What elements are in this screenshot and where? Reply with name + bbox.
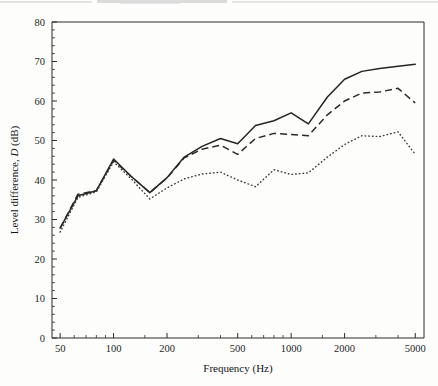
y-axis-title-prefix: Level difference, bbox=[8, 157, 20, 235]
y-axis-tick-label: 10 bbox=[35, 293, 46, 304]
x-axis-title: Frequency (Hz) bbox=[203, 362, 273, 375]
tick-labels-group: 0102030405060708050100200500100020005000 bbox=[35, 17, 426, 354]
x-axis-tick-label: 5000 bbox=[405, 343, 426, 354]
series-line-dashed bbox=[60, 88, 415, 228]
y-axis-title-symbol: D bbox=[8, 149, 20, 158]
figure-container: 0102030405060708050100200500100020005000… bbox=[0, 0, 438, 386]
x-axis-tick-label: 500 bbox=[230, 343, 246, 354]
y-axis-tick-label: 60 bbox=[35, 96, 46, 107]
x-axis-tick-label: 1000 bbox=[281, 343, 302, 354]
y-axis-tick-label: 0 bbox=[40, 333, 45, 344]
ticks-group bbox=[52, 22, 415, 338]
y-axis-title-suffix: (dB) bbox=[8, 125, 21, 148]
x-axis-tick-label: 50 bbox=[55, 343, 66, 354]
y-axis-title: Level difference, D (dB) bbox=[8, 125, 21, 234]
y-axis-tick-label: 50 bbox=[35, 135, 46, 146]
y-axis-tick-label: 80 bbox=[35, 17, 46, 28]
y-axis-tick-label: 20 bbox=[35, 254, 46, 265]
line-chart: 0102030405060708050100200500100020005000… bbox=[0, 0, 438, 386]
y-axis-tick-label: 30 bbox=[35, 214, 46, 225]
series-line-solid bbox=[60, 64, 415, 228]
x-axis-tick-label: 100 bbox=[106, 343, 122, 354]
y-axis-tick-label: 40 bbox=[35, 175, 46, 186]
y-axis-tick-label: 70 bbox=[35, 56, 46, 67]
series-group bbox=[60, 64, 415, 232]
x-axis-tick-label: 2000 bbox=[334, 343, 355, 354]
x-axis-tick-label: 200 bbox=[159, 343, 175, 354]
series-line-dotted bbox=[60, 132, 415, 232]
